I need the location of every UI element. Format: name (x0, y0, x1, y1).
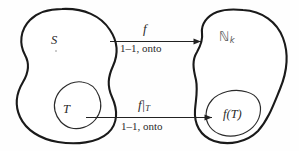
top-arrow-label-above: f (143, 22, 147, 35)
set-mapping-diagram: S T ℕk f(T) f 1–1, onto f|T 1–1, onto (0, 0, 299, 151)
codomain-set-label-base: ℕ (219, 29, 230, 44)
domain-subset-label: T (63, 103, 70, 116)
bottom-arrow-label-above: f|T (138, 98, 150, 113)
domain-subset-blob (54, 82, 100, 129)
codomain-set-label-subscript: k (230, 35, 235, 45)
bottom-arrow-label-subscript: T (145, 103, 150, 113)
top-arrow-label-below: 1–1, onto (120, 43, 162, 54)
codomain-set-label: ℕk (219, 30, 235, 45)
speck-mark (55, 50, 57, 52)
domain-set-label: S (51, 34, 57, 47)
codomain-subset-label: f(T) (223, 108, 242, 121)
bottom-arrow-label-below: 1–1, onto (121, 121, 163, 132)
